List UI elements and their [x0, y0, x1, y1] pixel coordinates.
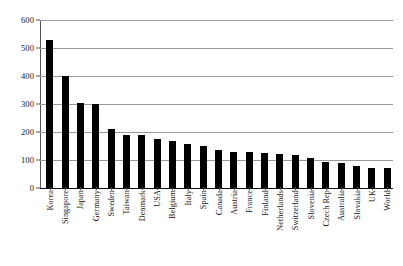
bar — [92, 104, 99, 188]
bar-series — [40, 20, 393, 188]
bar — [215, 150, 222, 188]
x-tick-label: Czech Rep — [321, 190, 330, 227]
x-tick-label: Austria — [229, 190, 238, 215]
y-tick-label: 100 — [21, 155, 34, 165]
x-tick-label: Taiwan — [122, 190, 131, 215]
x-tick-label: Finland — [260, 190, 269, 216]
y-tick-label: 500 — [21, 43, 34, 53]
x-axis-tick-labels: KoreaSingaporeJapanGermanySwedenTaiwanDe… — [40, 190, 393, 266]
x-tick-label: Denmark — [137, 190, 146, 221]
bar — [138, 135, 145, 188]
x-tick-label: Germany — [91, 190, 100, 221]
bar — [276, 154, 283, 188]
x-tick-label: Belgium — [168, 190, 177, 219]
bar — [62, 76, 69, 188]
bar — [154, 139, 161, 188]
y-tick-label: 600 — [21, 15, 34, 25]
bar — [384, 168, 391, 188]
x-tick-label: Spain — [199, 190, 208, 209]
bar — [108, 129, 115, 188]
x-tick-label: Netherlands — [275, 190, 284, 231]
x-tick-label: USA — [153, 190, 162, 207]
bar — [338, 163, 345, 188]
x-tick-label: Australia — [337, 190, 346, 221]
plot-area — [40, 20, 393, 188]
x-tick-label: Switzerland — [291, 190, 300, 230]
y-tick-label: 0 — [30, 183, 34, 193]
bar — [368, 168, 375, 188]
bar — [307, 158, 314, 188]
x-tick-label: Italy — [183, 190, 192, 206]
y-axis-tick-labels: 0100200300400500600 — [0, 0, 40, 266]
y-tick-label: 300 — [21, 99, 34, 109]
x-tick-label: Sweden — [107, 190, 116, 217]
bar-chart: 0100200300400500600 KoreaSingaporeJapanG… — [0, 0, 403, 266]
gridline-0 — [40, 188, 393, 189]
bar — [184, 144, 191, 188]
bar — [200, 146, 207, 188]
x-tick-label: Canada — [214, 190, 223, 215]
y-tick-label: 400 — [21, 71, 34, 81]
y-tick-label: 200 — [21, 127, 34, 137]
x-tick-label: Slovenia — [306, 190, 315, 219]
bar — [261, 153, 268, 188]
bar — [292, 155, 299, 188]
x-tick-label: Singapore — [61, 190, 70, 224]
bar — [77, 103, 84, 188]
bar — [322, 162, 329, 188]
x-tick-label: France — [245, 190, 254, 213]
bar — [353, 166, 360, 188]
x-tick-label: Japan — [76, 190, 85, 209]
x-tick-label: World — [383, 190, 392, 211]
bar — [123, 135, 130, 188]
x-tick-label: Korea — [45, 190, 54, 211]
x-tick-label: UK — [367, 190, 376, 202]
bar — [46, 40, 53, 188]
x-tick-label: Slovakia — [352, 190, 361, 219]
bar — [169, 141, 176, 188]
bar — [246, 152, 253, 188]
bar — [230, 152, 237, 188]
